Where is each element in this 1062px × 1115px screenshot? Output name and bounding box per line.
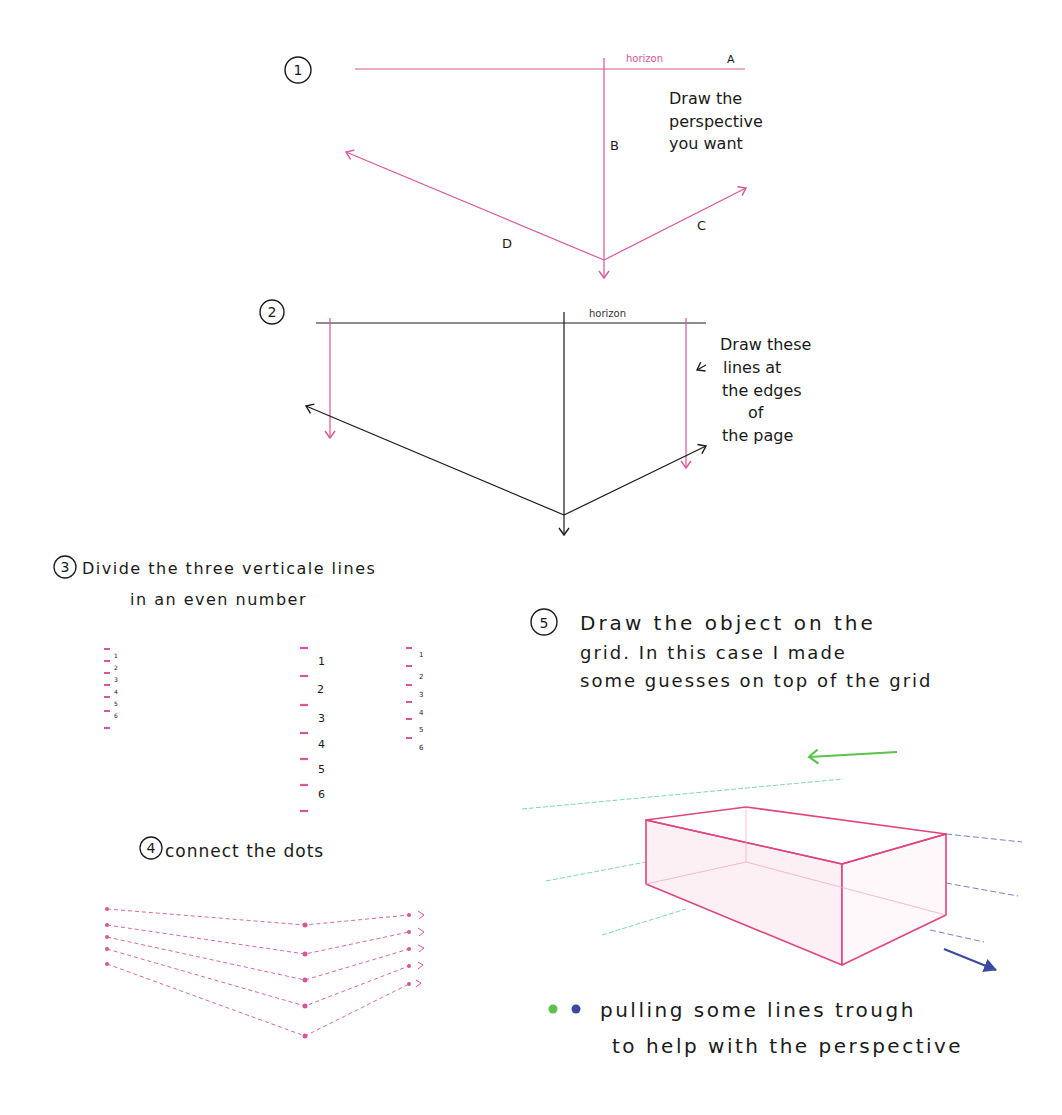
label-c: C: [697, 218, 706, 233]
svg-text:2: 2: [114, 664, 118, 671]
step-4-title: connect the dots: [165, 841, 324, 861]
green-direction-arrow: [809, 752, 897, 757]
svg-text:5: 5: [419, 726, 423, 734]
svg-text:6: 6: [419, 744, 424, 752]
line-c-arrow: [604, 188, 746, 260]
legend: pulling some lines trough to help with t…: [549, 998, 964, 1058]
svg-text:1: 1: [114, 652, 118, 659]
line-d-arrow: [346, 152, 604, 260]
perspective-box: [646, 807, 946, 965]
step-2-number: 2: [268, 304, 277, 320]
svg-text:1: 1: [419, 651, 423, 659]
step-5-title-line2: grid. In this case I made: [580, 642, 847, 663]
step-3: 3 Divide the three verticale lines in an…: [54, 556, 424, 811]
grid-dots: [105, 907, 411, 1039]
svg-text:4: 4: [114, 688, 118, 695]
label-d: D: [502, 236, 512, 251]
svg-text:5: 5: [114, 700, 118, 707]
label-b: B: [610, 138, 619, 153]
step-5-number: 5: [540, 615, 549, 631]
step-5-title-line3: some guesses on top of the grid: [580, 670, 933, 691]
legend-dot-blue: [572, 1005, 581, 1014]
svg-text:2: 2: [317, 683, 324, 696]
svg-text:4: 4: [318, 738, 325, 751]
step-2: 2 horizon Draw these lines at the edges …: [260, 300, 811, 535]
right-arrowheads: [416, 911, 424, 987]
left-column-ticks: 1 2 3 4 5 6: [104, 649, 118, 728]
step-3-number: 3: [61, 559, 70, 575]
connected-dots-grid: [107, 909, 409, 1036]
step-3-title-line2: in an even number: [130, 590, 307, 609]
step-4: 4 connect the dots: [105, 837, 424, 1039]
svg-text:you want: you want: [669, 134, 743, 153]
horizon-label: horizon: [626, 53, 663, 64]
step-1: 1 horizon A B D C Draw the perspective y…: [285, 53, 763, 278]
svg-text:3: 3: [318, 712, 325, 725]
label-a: A: [727, 53, 735, 66]
legend-line1: pulling some lines trough: [600, 998, 916, 1022]
svg-text:2: 2: [419, 673, 423, 681]
svg-text:6: 6: [318, 788, 325, 801]
legend-line2: to help with the perspective: [612, 1034, 963, 1058]
svg-text:the edges: the edges: [722, 381, 802, 400]
right-diagonal-arrow: [564, 446, 706, 515]
step-5-title-line1: Draw the object on the: [580, 611, 876, 635]
svg-text:1: 1: [318, 655, 325, 668]
horizon-label-2: horizon: [589, 308, 626, 319]
note-pointer-arrow: [697, 365, 706, 370]
center-column-ticks: 1 2 3 4 5 6: [300, 648, 325, 811]
step-1-number: 1: [294, 62, 303, 78]
step-5: 5 Draw the object on the grid. In this c…: [522, 609, 1022, 1058]
step-4-number: 4: [147, 840, 156, 856]
right-column-ticks: 1 2 3 4 5 6: [406, 648, 424, 752]
blue-direction-arrow: [944, 949, 996, 970]
svg-text:4: 4: [419, 709, 424, 717]
svg-text:3: 3: [114, 676, 118, 683]
svg-text:of: of: [748, 403, 764, 422]
step-2-note: Draw these lines at the edges of the pag…: [720, 335, 811, 445]
svg-text:3: 3: [419, 691, 423, 699]
svg-text:6: 6: [114, 712, 118, 719]
svg-text:lines at: lines at: [723, 358, 781, 377]
svg-text:Draw these: Draw these: [720, 335, 811, 354]
step-1-note: Draw the perspective you want: [669, 89, 763, 153]
left-diagonal-arrow: [306, 406, 564, 515]
svg-text:the page: the page: [722, 426, 793, 445]
step-3-title-line1: Divide the three verticale lines: [82, 559, 376, 578]
svg-text:perspective: perspective: [669, 112, 763, 131]
box-front-right-face: [842, 834, 946, 965]
svg-text:Draw the: Draw the: [669, 89, 742, 108]
perspective-tutorial-diagram: 1 horizon A B D C Draw the perspective y…: [0, 0, 1062, 1115]
svg-text:5: 5: [318, 763, 325, 776]
legend-dot-green: [549, 1005, 558, 1014]
